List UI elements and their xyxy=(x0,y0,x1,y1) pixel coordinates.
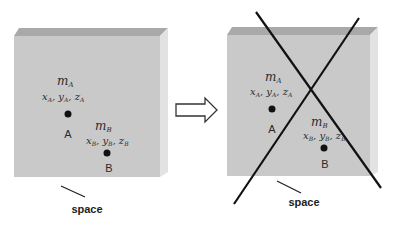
transition-arrow-icon xyxy=(176,98,217,122)
right-point-a-dot xyxy=(269,106,276,113)
left-point-b-dot xyxy=(104,150,111,157)
right-point-b-label: B xyxy=(321,158,328,170)
right-top-face xyxy=(227,27,378,35)
left-side-face xyxy=(160,28,168,177)
left-top-face xyxy=(14,28,168,36)
right-front-face xyxy=(227,35,370,176)
left-front-face xyxy=(14,36,160,177)
left-point-a-dot xyxy=(65,111,72,118)
left-space-block xyxy=(14,28,168,177)
right-space-leader-line xyxy=(277,181,301,193)
left-point-b-label: B xyxy=(105,162,112,174)
left-point-a-label: A xyxy=(64,128,72,140)
diagram-canvas: mA xA, yA, zA A mB xB, yB, zB B space mA… xyxy=(0,0,396,225)
left-space-label: space xyxy=(71,203,102,215)
right-side-face xyxy=(370,27,378,176)
right-space-label: space xyxy=(288,196,319,208)
right-point-a-label: A xyxy=(268,123,276,135)
right-point-b-dot xyxy=(321,145,328,152)
left-space-leader-line xyxy=(61,186,85,197)
